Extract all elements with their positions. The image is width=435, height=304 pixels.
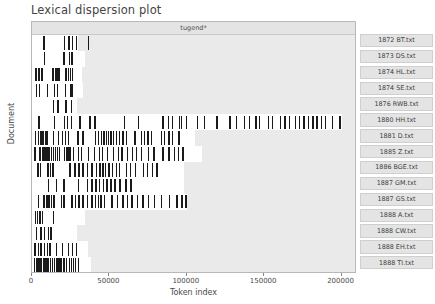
- occurrence-tick: [244, 116, 245, 129]
- x-tick-label: 100000: [172, 277, 199, 285]
- occurrence-tick: [53, 100, 54, 113]
- occurrence-tick: [91, 179, 92, 192]
- x-tick-mark: [263, 273, 264, 276]
- occurrence-tick: [63, 179, 64, 192]
- occurrence-tick: [87, 195, 88, 208]
- occurrence-tick: [82, 195, 83, 208]
- occurrence-tick: [95, 195, 96, 208]
- occurrence-tick: [43, 195, 44, 208]
- occurrence-tick: [181, 116, 182, 129]
- occurrence-tick: [73, 258, 74, 271]
- facet-strip-top: tugend*: [32, 22, 355, 35]
- x-tick-mark: [108, 273, 109, 276]
- occurrence-tick: [65, 68, 66, 81]
- document-row: [32, 194, 355, 210]
- occurrence-tick: [89, 116, 90, 129]
- occurrence-tick: [56, 179, 57, 192]
- occurrence-tick: [185, 195, 186, 208]
- occurrence-tick: [103, 179, 104, 192]
- occurrence-tick: [127, 195, 128, 208]
- occurrence-tick: [79, 116, 80, 129]
- occurrence-tick: [87, 179, 88, 192]
- occurrence-tick: [182, 147, 183, 160]
- document-strip-label: 1876 RWB.txt: [360, 97, 433, 110]
- occurrence-tick: [325, 116, 326, 129]
- row-background-band: [32, 98, 355, 114]
- occurrence-tick: [134, 131, 135, 144]
- occurrence-tick: [102, 163, 103, 176]
- occurrence-tick: [132, 147, 133, 160]
- occurrence-tick: [59, 147, 60, 160]
- occurrence-tick: [174, 147, 175, 160]
- document-row: [32, 225, 355, 241]
- occurrence-tick: [108, 163, 109, 176]
- occurrence-tick: [186, 116, 187, 129]
- occurrence-tick: [66, 258, 67, 271]
- occurrence-tick: [46, 131, 47, 144]
- occurrence-tick: [48, 179, 49, 192]
- occurrence-tick: [72, 68, 73, 81]
- occurrence-tick: [268, 116, 269, 129]
- occurrence-tick: [71, 116, 72, 129]
- occurrence-tick: [162, 147, 163, 160]
- occurrence-tick: [39, 147, 40, 160]
- document-strip-label: 1888 EH.txt: [360, 240, 433, 253]
- occurrence-tick: [143, 163, 144, 176]
- occurrence-tick: [216, 116, 217, 129]
- occurrence-tick: [63, 52, 64, 65]
- document-extent: [32, 225, 77, 241]
- x-tick-mark: [341, 273, 342, 276]
- document-row: [32, 210, 355, 226]
- occurrence-tick: [204, 116, 205, 129]
- occurrence-tick: [40, 163, 41, 176]
- occurrence-tick: [106, 131, 107, 144]
- occurrence-tick: [44, 243, 45, 256]
- occurrence-tick: [147, 131, 148, 144]
- occurrence-tick: [50, 227, 51, 240]
- document-strip-label: 1887 GS.txt: [360, 193, 433, 206]
- occurrence-tick: [131, 195, 132, 208]
- occurrence-tick: [54, 258, 55, 271]
- occurrence-tick: [168, 147, 169, 160]
- occurrence-tick: [102, 147, 103, 160]
- occurrence-tick: [119, 131, 120, 144]
- occurrence-tick: [110, 179, 111, 192]
- occurrence-tick: [299, 116, 300, 129]
- x-tick-label: 0: [29, 277, 33, 285]
- document-strip-label: 1888 CW.txt: [360, 224, 433, 237]
- plot-area: tugend*: [31, 21, 356, 273]
- occurrence-tick: [37, 163, 38, 176]
- occurrence-tick: [52, 68, 53, 81]
- occurrence-tick: [81, 147, 82, 160]
- document-row: [32, 130, 355, 146]
- occurrence-tick: [169, 195, 170, 208]
- document-strip-label: 1888 TI.txt: [360, 256, 433, 269]
- occurrence-tick: [168, 116, 169, 129]
- occurrence-tick: [135, 163, 136, 176]
- document-strip-label: 1888 A.txt: [360, 209, 433, 222]
- document-row: [32, 114, 355, 130]
- occurrence-tick: [117, 195, 118, 208]
- occurrence-tick: [99, 179, 100, 192]
- document-strip-label: 1881 D.txt: [360, 129, 433, 142]
- occurrence-tick: [57, 100, 58, 113]
- x-tick-mark: [31, 273, 32, 276]
- occurrence-tick: [52, 258, 53, 271]
- occurrence-tick: [147, 163, 148, 176]
- occurrence-tick: [95, 179, 96, 192]
- occurrence-tick: [116, 163, 117, 176]
- document-extent: [32, 51, 85, 67]
- occurrence-tick: [249, 116, 250, 129]
- occurrence-tick: [44, 227, 45, 240]
- occurrence-tick: [49, 243, 50, 256]
- occurrence-tick: [38, 195, 39, 208]
- occurrence-tick: [164, 131, 165, 144]
- occurrence-tick: [87, 163, 88, 176]
- occurrence-tick: [162, 116, 163, 129]
- occurrence-tick: [78, 258, 79, 271]
- document-strip-label: 1885 Z.txt: [360, 145, 433, 158]
- occurrence-tick: [78, 195, 79, 208]
- occurrence-tick: [141, 147, 142, 160]
- occurrence-tick: [130, 179, 131, 192]
- occurrence-tick: [59, 68, 60, 81]
